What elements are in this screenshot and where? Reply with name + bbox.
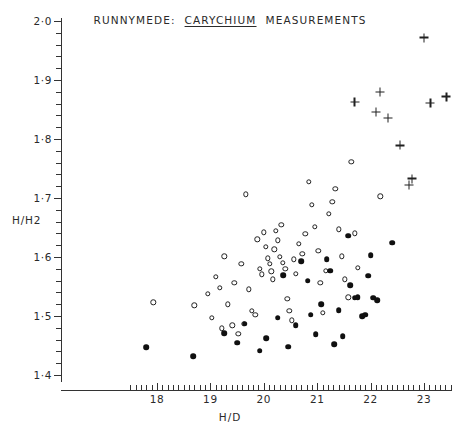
data-point-open-circle — [209, 315, 214, 320]
data-point-open-circle — [349, 159, 354, 164]
data-point-filled-circle — [308, 312, 314, 318]
x-tick-minor — [344, 385, 345, 391]
data-point-open-circle — [265, 255, 270, 260]
data-point-open-circle — [270, 277, 275, 282]
data-point-open-circle — [232, 280, 237, 285]
x-tick-minor — [440, 385, 441, 391]
data-point-open-circle — [259, 271, 264, 276]
y-tick-label: 2·0 — [0, 15, 52, 27]
x-tick-minor — [333, 385, 334, 391]
x-tick-minor — [285, 385, 286, 391]
data-point-plus — [426, 99, 435, 108]
data-point-filled-circle — [348, 283, 354, 289]
x-tick-minor — [307, 385, 308, 391]
data-point-filled-circle — [327, 268, 333, 274]
y-tick-major — [54, 375, 62, 376]
data-point-open-circle — [291, 257, 296, 262]
x-tick-minor — [280, 385, 281, 391]
data-point-plus — [376, 87, 385, 96]
x-tick-label: 22 — [351, 393, 391, 405]
data-point-plus — [395, 141, 404, 150]
y-tick-label: 1·7 — [0, 192, 52, 204]
y-tick-major — [54, 316, 62, 317]
x-tick-minor — [248, 385, 249, 391]
y-tick-label: 1·9 — [0, 74, 52, 86]
y-tick-label: 1·5 — [0, 310, 52, 322]
data-point-open-circle — [239, 261, 244, 266]
data-point-filled-circle — [365, 273, 371, 279]
data-point-filled-circle — [374, 297, 380, 303]
x-tick-minor — [291, 385, 292, 391]
x-tick-minor — [429, 385, 430, 391]
data-point-open-circle — [378, 194, 383, 199]
x-tick-minor — [226, 385, 227, 391]
x-tick-minor — [237, 385, 238, 391]
y-tick-major — [54, 257, 62, 258]
data-point-filled-circle — [298, 258, 304, 264]
data-point-open-circle — [275, 238, 280, 243]
data-point-open-circle — [336, 227, 341, 232]
data-point-filled-circle — [345, 233, 351, 239]
data-point-filled-circle — [286, 344, 292, 350]
x-tick-minor — [296, 385, 297, 391]
x-tick-minor — [274, 385, 275, 391]
data-point-open-circle — [269, 268, 274, 273]
x-tick-minor — [312, 385, 313, 391]
data-point-open-circle — [280, 260, 285, 265]
data-point-filled-circle — [221, 330, 227, 336]
x-tick-label: 23 — [404, 393, 444, 405]
data-point-open-circle — [342, 277, 347, 282]
x-tick-minor — [205, 385, 206, 391]
y-axis-label: H/H2 — [12, 214, 41, 226]
data-point-filled-circle — [242, 321, 248, 327]
data-point-open-circle — [273, 228, 278, 233]
data-point-filled-circle — [336, 307, 342, 313]
x-tick-label: 20 — [244, 393, 284, 405]
x-tick-minor — [445, 385, 446, 391]
x-tick-minor — [397, 385, 398, 391]
data-point-open-circle — [263, 244, 268, 249]
data-point-open-circle — [205, 291, 210, 296]
y-tick-label: 1·8 — [0, 133, 52, 145]
data-point-open-circle — [333, 186, 338, 191]
x-tick-minor — [242, 385, 243, 391]
data-point-filled-circle — [355, 294, 361, 300]
data-point-open-circle — [355, 265, 360, 270]
data-point-open-circle — [230, 323, 235, 328]
y-tick-major — [54, 80, 62, 81]
data-point-filled-circle — [319, 301, 325, 307]
y-tick-label: 1·4 — [0, 369, 52, 381]
data-point-plus — [420, 33, 429, 42]
x-tick-minor — [408, 385, 409, 391]
x-tick-minor — [152, 385, 153, 391]
data-point-open-circle — [255, 237, 260, 242]
data-point-filled-circle — [340, 333, 346, 339]
data-point-filled-circle — [313, 331, 319, 337]
data-point-open-circle — [222, 254, 227, 259]
x-tick-minor — [328, 385, 329, 391]
data-point-open-circle — [243, 192, 248, 197]
data-point-open-circle — [282, 266, 287, 271]
data-point-open-circle — [352, 231, 357, 236]
data-point-open-circle — [285, 296, 290, 301]
data-point-plus — [442, 92, 451, 101]
data-point-open-circle — [217, 285, 222, 290]
x-axis-line — [61, 390, 452, 391]
x-tick-label: 19 — [190, 393, 230, 405]
x-tick-minor — [365, 385, 366, 391]
data-point-open-circle — [253, 312, 258, 317]
data-point-open-circle — [192, 303, 197, 308]
data-point-open-circle — [261, 230, 266, 235]
x-tick-minor — [339, 385, 340, 391]
x-tick-minor — [162, 385, 163, 391]
x-tick-minor — [258, 385, 259, 391]
data-point-open-circle — [289, 317, 294, 322]
x-tick-minor — [451, 385, 452, 391]
data-point-plus — [350, 97, 359, 106]
x-tick-minor — [232, 385, 233, 391]
plot-area — [62, 16, 452, 385]
x-tick-label: 18 — [137, 393, 177, 405]
x-tick-minor — [381, 385, 382, 391]
data-point-plus — [383, 113, 392, 122]
data-point-filled-circle — [368, 252, 374, 258]
